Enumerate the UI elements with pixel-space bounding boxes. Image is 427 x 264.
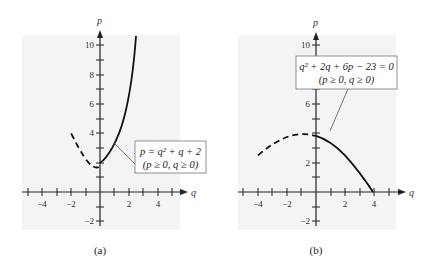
caption-a: (a) [94,244,107,257]
p-tick-label: 10 [301,40,311,50]
p-axis-label: p [312,17,318,28]
q-tick-label: 2 [343,199,348,209]
q-tick-label: 2 [127,199,132,209]
q-tick-label: −4 [253,199,263,209]
q-axis-label: q [191,187,196,198]
caption-b: (b) [310,244,323,257]
p-tick-label: 4 [90,128,95,138]
equation-text: p = q² + q + 2 [139,146,202,157]
p-tick-label: −2 [300,216,310,226]
q-axis-arrow-icon [180,189,188,195]
panel-b: −4 −2 2 4 −2 2 6 10 q p q² + 2q + 6p − 2… [238,17,414,257]
p-tick-label: 10 [85,40,95,50]
figure: −4 −2 2 4 −2 4 6 8 10 q p p = q² + q + 2… [0,0,427,264]
p-tick-label: 8 [90,70,95,80]
p-axis-arrow-icon [97,30,103,38]
constraint-text: (p ≥ 0, q ≥ 0) [143,159,199,171]
p-tick-label: −2 [84,216,94,226]
p-tick-label: 6 [306,99,311,109]
q-tick-label: 4 [156,199,161,209]
p-tick-label: 6 [90,99,95,109]
q-axis-arrow-icon [398,189,406,195]
p-tick-label: 2 [306,158,311,168]
q-tick-label: −2 [282,199,292,209]
equation-text: q² + 2q + 6p − 23 = 0 [299,61,394,72]
q-tick-label: 4 [372,199,377,209]
panel-a: −4 −2 2 4 −2 4 6 8 10 q p p = q² + q + 2… [22,15,206,257]
q-tick-label: −2 [66,199,76,209]
q-tick-label: −4 [37,199,47,209]
q-axis-label: q [409,187,414,198]
constraint-text: (p ≥ 0, q ≥ 0) [319,74,375,86]
p-axis-label: p [96,15,102,26]
